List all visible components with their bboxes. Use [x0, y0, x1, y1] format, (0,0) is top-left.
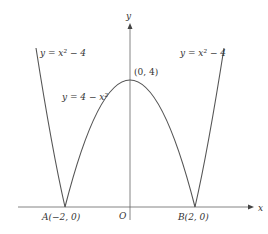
y-axis-label: y: [125, 11, 132, 21]
origin-label: O: [119, 211, 127, 221]
middle-curve-label: y = 4 − x²: [61, 92, 108, 102]
point-b-label: B(2, 0): [177, 212, 209, 222]
curve-left-x2-minus-4: [36, 48, 65, 207]
graph-figure: x y O y = x² − 4 y = x² − 4 y = 4 − x² (…: [0, 0, 268, 234]
x-axis-arrow-icon: [248, 205, 254, 210]
x-axis-label: x: [258, 203, 263, 213]
left-curve-label: y = x² − 4: [39, 48, 86, 58]
y-axis-arrow-icon: [128, 23, 133, 29]
right-curve-label: y = x² − 4: [179, 48, 226, 58]
curve-right-x2-minus-4: [195, 48, 224, 207]
apex-label: (0, 4): [134, 67, 158, 77]
point-a-label: A(−2, 0): [41, 212, 81, 222]
